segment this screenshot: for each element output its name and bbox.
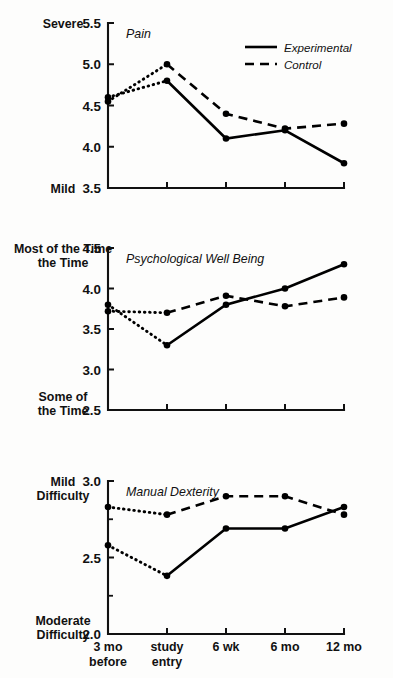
data-point [341, 120, 348, 127]
legend-label-experimental: Experimental [284, 41, 352, 54]
panel-title-2: Psychological Well Being [126, 252, 264, 266]
data-point [223, 301, 230, 308]
data-point [341, 294, 348, 301]
data-point [223, 493, 230, 500]
data-point [164, 77, 171, 84]
x-tick-label: 12 mo [326, 640, 362, 654]
series-experimental-baseline [108, 545, 167, 576]
panel-3-axes [108, 481, 344, 634]
y-tick-label: 4.0 [82, 140, 101, 155]
data-point [164, 511, 171, 518]
data-point [341, 261, 348, 268]
y-axis-bottom-label: Difficulty [36, 628, 89, 642]
data-point [164, 342, 171, 349]
data-point [282, 493, 289, 500]
x-axis-labels: 3 mobeforestudyentry6 wk6 mo12 mo [89, 640, 362, 669]
data-point [164, 61, 171, 68]
y-axis-top-label: Difficulty [36, 489, 89, 503]
data-point [164, 310, 171, 317]
data-point [341, 504, 348, 511]
y-axis-bottom-label: Some of [39, 390, 89, 404]
series-control [167, 496, 344, 514]
legend-label-control: Control [284, 58, 322, 71]
data-point [341, 511, 348, 518]
y-tick-label: 5.5 [82, 16, 101, 31]
data-point [164, 573, 171, 580]
y-axis-top-label: the Time [38, 256, 89, 270]
data-point [223, 292, 230, 299]
y-tick-label: 3.5 [82, 181, 101, 196]
legend: ExperimentalControl [245, 41, 352, 71]
series-experimental-baseline [108, 305, 167, 346]
x-tick-label: before [89, 655, 127, 669]
x-tick-label: study [150, 640, 183, 654]
data-point [282, 525, 289, 532]
y-axis-top-label: Most of the Time [14, 242, 112, 256]
data-point [105, 542, 112, 549]
data-point [223, 110, 230, 117]
data-point [105, 308, 112, 315]
x-tick-label: 6 mo [271, 640, 300, 654]
data-point [105, 504, 112, 511]
data-point [282, 125, 289, 132]
series-control [167, 296, 344, 313]
y-tick-label: 4.0 [82, 282, 101, 297]
data-point [105, 301, 112, 308]
panel-3: 2.02.53.0Manual DexterityMildDifficultyM… [35, 474, 347, 642]
y-tick-label: 4.5 [82, 99, 101, 114]
data-point [223, 135, 230, 142]
y-axis-bottom-label: Moderate [35, 614, 90, 628]
y-tick-label: 2.5 [82, 551, 101, 566]
data-point [341, 160, 348, 167]
y-tick-label: 3.0 [82, 363, 101, 378]
y-tick-label: 5.0 [82, 57, 101, 72]
series-experimental [167, 507, 344, 576]
panel-title-3: Manual Dexterity [126, 485, 220, 499]
series-control-baseline [108, 507, 167, 515]
panel-title-1: Pain [126, 27, 151, 41]
y-tick-label: 3.5 [82, 322, 101, 337]
data-point [105, 98, 112, 105]
y-axis-bottom-label: the Time [38, 404, 89, 418]
y-axis-top-label: Severe [43, 17, 84, 31]
data-point [282, 303, 289, 310]
y-axis-bottom-label: Mild [51, 182, 76, 196]
x-tick-label: entry [152, 655, 182, 669]
series-control [167, 64, 344, 128]
data-point [223, 525, 230, 532]
panel-2: 2.53.03.54.04.5Psychological Well BeingM… [14, 241, 347, 418]
multi-panel-line-chart: 3.54.04.55.05.5PainSevereMild2.53.03.54.… [0, 0, 393, 678]
series-experimental [167, 264, 344, 345]
figure-container: 3.54.04.55.05.5PainSevereMild2.53.03.54.… [0, 0, 393, 678]
y-axis-top-label: Mild [51, 475, 76, 489]
y-tick-label: 3.0 [82, 474, 101, 489]
x-tick-label: 6 wk [213, 640, 240, 654]
data-point [282, 285, 289, 292]
x-tick-label: 3 mo [94, 640, 123, 654]
